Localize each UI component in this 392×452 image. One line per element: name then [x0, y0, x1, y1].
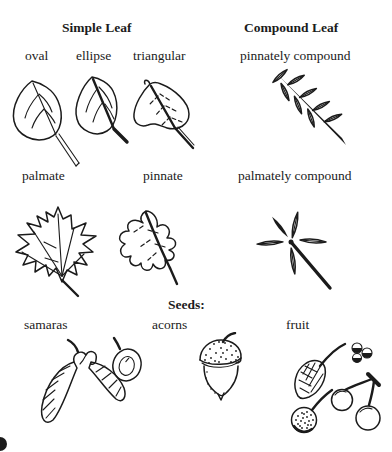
- samaras-illustration: [28, 336, 152, 434]
- fruit-cluster-illustration: [284, 334, 390, 446]
- label-pinnate: pinnate: [143, 168, 183, 184]
- label-oval: oval: [25, 48, 48, 64]
- pinnate-leaf-illustration: [110, 206, 192, 290]
- ellipse-leaf-illustration: [70, 74, 136, 150]
- label-triangular: triangular: [133, 48, 185, 64]
- page-edge-mark: [0, 437, 7, 451]
- palmately-compound-leaf-illustration: [240, 208, 340, 300]
- triangular-leaf-illustration: [128, 76, 200, 154]
- label-fruit: fruit: [286, 317, 309, 333]
- simple-leaf-heading: Simple Leaf: [62, 20, 131, 36]
- leaf-identification-diagram: Simple Leaf Compound Leaf oval ellipse t…: [0, 0, 392, 452]
- label-pinnately-compound: pinnately compound: [240, 48, 351, 64]
- acorn-illustration: [192, 332, 250, 402]
- label-samaras: samaras: [24, 317, 67, 333]
- seeds-heading: Seeds:: [168, 297, 205, 313]
- label-palmately-compound: palmately compound: [238, 168, 352, 184]
- compound-leaf-heading: Compound Leaf: [244, 20, 338, 36]
- label-ellipse: ellipse: [76, 48, 111, 64]
- label-acorns: acorns: [152, 317, 187, 333]
- pinnately-compound-leaf-illustration: [258, 66, 358, 158]
- palmate-leaf-illustration: [12, 202, 104, 298]
